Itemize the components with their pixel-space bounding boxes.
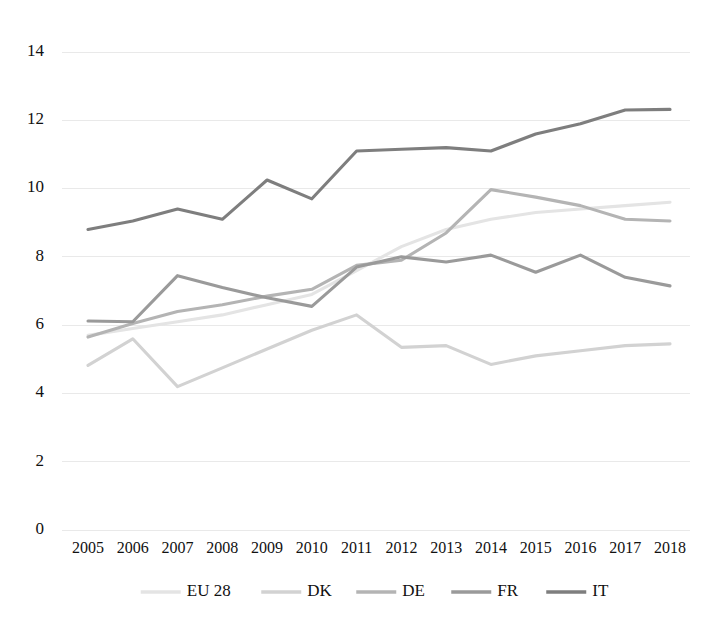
x-axis-tick-label: 2013 — [430, 539, 462, 556]
x-axis-tick-label: 2011 — [341, 539, 372, 556]
y-axis-tick-label: 0 — [36, 519, 45, 538]
x-axis-tick-label: 2007 — [162, 539, 194, 556]
x-axis-tick-label: 2012 — [385, 539, 417, 556]
x-axis-tick-label: 2005 — [72, 539, 104, 556]
chart-canvas: 02468101214 2005200620072008200920102011… — [0, 0, 707, 618]
line-chart: 02468101214 2005200620072008200920102011… — [0, 0, 707, 618]
y-axis-tick-label: 12 — [27, 109, 44, 128]
x-axis-tick-label: 2008 — [206, 539, 238, 556]
x-axis-tick-label: 2006 — [117, 539, 149, 556]
y-axis-tick-label: 8 — [36, 246, 45, 265]
x-axis-tick-label: 2010 — [296, 539, 328, 556]
x-axis-tick-label: 2015 — [520, 539, 552, 556]
y-axis-tick-label: 6 — [36, 314, 45, 333]
x-axis-tick-label: 2009 — [251, 539, 283, 556]
chart-background — [0, 0, 707, 618]
y-axis-tick-label: 10 — [27, 177, 44, 196]
y-axis-tick-label: 2 — [36, 451, 45, 470]
x-axis-tick-label: 2016 — [564, 539, 596, 556]
legend-label: EU 28 — [187, 581, 231, 600]
y-axis-tick-label: 4 — [36, 382, 45, 401]
legend-label: DK — [307, 581, 332, 600]
legend-label: IT — [592, 581, 609, 600]
x-axis-tick-label: 2017 — [609, 539, 641, 556]
y-axis-tick-label: 14 — [27, 41, 45, 60]
legend-label: DE — [402, 581, 425, 600]
x-axis-tick-label: 2014 — [475, 539, 507, 556]
legend-label: FR — [497, 581, 518, 600]
x-axis-tick-label: 2018 — [654, 539, 686, 556]
